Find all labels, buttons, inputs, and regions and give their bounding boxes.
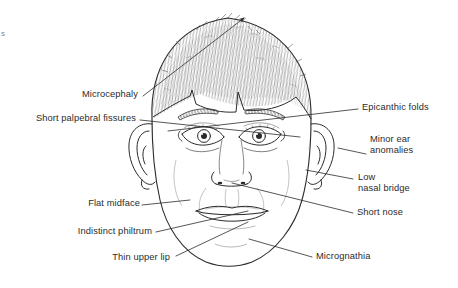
hair-group [152,13,311,119]
left-nostril [218,182,223,185]
label-low-nasal-bridge-line2: nasal bridge [358,183,410,193]
ears-group [129,124,334,189]
philtrum-left-ridge [225,189,226,206]
label-minor-ear-anomalies-line1: Minor ear [370,134,410,144]
leader-short-nose [232,183,353,213]
figure-container: s [0,0,458,288]
left-lower-eyelid-crease [186,148,219,152]
label-indistinct-philtrum: Indistinct philtrum [18,226,152,237]
eyes-group [178,123,284,152]
left-eyebrow [178,109,218,120]
leader-flat-midface [142,200,190,205]
nose-bridge-right [241,140,244,174]
right-cheek-contour [281,160,289,206]
left-cheek-contour [174,160,182,206]
right-ear [308,124,334,189]
label-short-palpebral-fissures: Short palpebral fissures [6,113,136,124]
nose-right-ala [247,172,251,184]
leader-low-nasal-bridge [306,170,353,179]
label-minor-ear-anomalies-line2: anomalies [370,145,413,155]
right-lower-eyelid-crease [244,148,277,152]
philtrum-group [225,189,239,206]
left-ear [129,124,155,189]
hair-mass-overlay [160,24,303,110]
label-short-nose: Short nose [357,207,403,218]
nose-group [212,140,252,186]
leader-minor-ear-anomalies [338,148,366,154]
left-epicanthic-fold [178,131,182,141]
label-minor-ear-anomalies: Minor earanomalies [370,134,413,156]
nose-left-ala [212,172,216,184]
mouth-line [196,211,268,215]
nose-bridge-left [219,140,222,174]
label-microcephaly: Microcephaly [42,89,138,100]
label-micrognathia: Micrognathia [316,251,370,262]
lower-lip-shadow [210,226,255,229]
philtrum-right-ridge [238,189,239,206]
right-epicanthic-fold [281,131,285,141]
right-eye [239,123,285,152]
label-thin-upper-lip: Thin upper lip [62,252,170,263]
mouth-group [196,206,268,229]
label-epicanthic-folds: Epicanthic folds [362,102,429,113]
leader-micrognathia [249,239,312,257]
chin-group [215,244,247,247]
leader-thin-upper-lip [176,222,248,256]
left-eye-highlight [201,133,203,135]
temple-shading [151,116,313,152]
right-eye-highlight [256,133,258,135]
nose-tip [224,180,239,182]
right-nostril [241,182,246,185]
label-low-nasal-bridge: Lownasal bridge [358,172,410,194]
label-low-nasal-bridge-line1: Low [358,172,375,182]
label-flat-midface: Flat midface [22,198,140,209]
leader-short-palpebral-fissures [140,120,300,137]
eyebrows-group [178,109,285,120]
chin-crease [215,244,247,247]
